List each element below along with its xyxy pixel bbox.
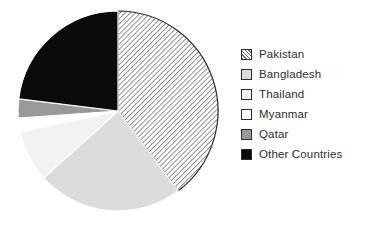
pie-chart-figure: Pakistan Bangladesh Thailand Myanmar Qat… xyxy=(0,0,369,228)
legend-item-pakistan[interactable]: Pakistan xyxy=(241,44,367,64)
pie-slice-other-countries[interactable] xyxy=(19,11,118,111)
legend-item-label: Other Countries xyxy=(259,148,342,161)
pie-slices xyxy=(18,11,218,211)
chart-legend: Pakistan Bangladesh Thailand Myanmar Qat… xyxy=(241,44,367,164)
legend-item-other-countries[interactable]: Other Countries xyxy=(241,144,367,164)
legend-item-label: Bangladesh xyxy=(259,68,321,81)
black-swatch xyxy=(241,149,252,160)
mid-gray-swatch xyxy=(241,129,252,140)
legend-item-label: Pakistan xyxy=(259,48,304,61)
white-swatch xyxy=(241,109,252,120)
legend-item-qatar[interactable]: Qatar xyxy=(241,124,367,144)
legend-item-label: Myanmar xyxy=(259,108,308,121)
pale-gray-swatch xyxy=(241,89,252,100)
legend-item-myanmar[interactable]: Myanmar xyxy=(241,104,367,124)
hatch-swatch xyxy=(241,49,252,60)
legend-item-bangladesh[interactable]: Bangladesh xyxy=(241,64,367,84)
light-gray-swatch xyxy=(241,69,252,80)
legend-item-thailand[interactable]: Thailand xyxy=(241,84,367,104)
legend-item-label: Thailand xyxy=(259,88,304,101)
legend-item-label: Qatar xyxy=(259,128,289,141)
